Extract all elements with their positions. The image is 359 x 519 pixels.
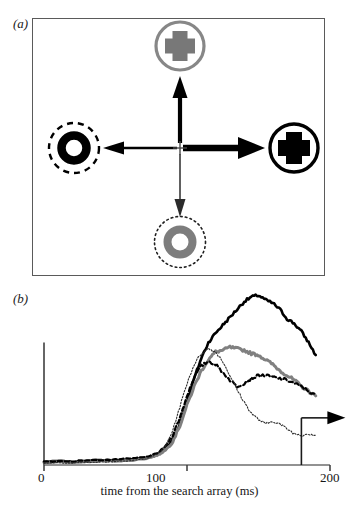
panel-b-chart [0,283,359,483]
stimulus-right-black-plus-in-circle [270,124,318,172]
annotation-arrowhead [327,411,345,424]
stimulus-bottom-gray-ring-in-dotted-circle [155,217,206,268]
x-axis-label: time from the search array (ms) [0,484,359,499]
stimulus-top-gray-plus-in-circle [156,22,204,70]
panel-a-svg [32,18,325,276]
arrow-down [175,154,186,217]
arrow-up [173,76,188,143]
fixation-cross [173,141,187,155]
series-thick-gray-solid [44,346,316,463]
stimulus-left-black-ring-in-dashed-circle [49,123,99,173]
arrow-right [183,137,265,159]
chart-series-group [44,295,316,464]
arrow-left [103,142,177,155]
series-thick-black-solid [44,295,316,463]
series-black-dashed [44,362,316,462]
panel-a-stimulus-array [32,18,325,276]
panel-a-label: (a) [13,16,28,32]
activity-time-course-plot [0,283,359,483]
chart-annotations [301,411,345,465]
